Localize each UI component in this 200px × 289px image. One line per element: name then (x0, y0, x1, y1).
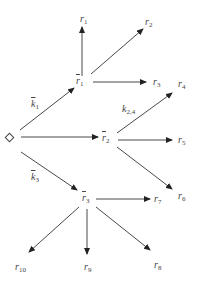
edge-rbar3-r8 (96, 207, 150, 250)
edge-start-rbar1 (20, 88, 74, 130)
node-r5-sub: 5 (182, 139, 186, 147)
node-rbar2-sub: 2 (106, 137, 110, 145)
node-r10-sub: 10 (19, 266, 26, 274)
node-r2-sub: 2 (149, 21, 153, 29)
node-r4: r4 (178, 79, 185, 91)
edge-label-k1-sub: 1 (35, 103, 39, 111)
node-r2: r2 (145, 17, 152, 29)
edge-label-k3: k3 (31, 172, 39, 184)
node-rbar1: r1 (76, 76, 83, 88)
node-r10: r10 (15, 262, 26, 274)
node-r7-sub: 7 (158, 198, 162, 206)
node-rbar1-sub: 1 (80, 80, 84, 88)
node-r9: r9 (84, 262, 91, 274)
tree-diagram (0, 0, 200, 289)
node-rbar3: r3 (82, 193, 89, 205)
node-r3: r3 (153, 77, 160, 89)
node-r1: r1 (80, 14, 87, 26)
node-r6: r6 (178, 191, 185, 203)
edge-label-k24: k2,4 (122, 104, 135, 116)
node-r7: r7 (154, 194, 161, 206)
node-rbar3-sub: 3 (86, 197, 90, 205)
edge-label-k1: k1 (31, 99, 39, 111)
edge-rbar3-r10 (29, 207, 79, 252)
edge-rbar2-r6 (117, 147, 172, 189)
edge-start-rbar3 (21, 152, 77, 190)
node-r5: r5 (178, 135, 185, 147)
node-rbar2: r2 (102, 133, 109, 145)
node-r8: r8 (154, 260, 161, 272)
node-r6-sub: 6 (182, 195, 186, 203)
edge-label-k3-sub: 3 (35, 176, 39, 184)
node-r3-sub: 3 (157, 81, 161, 89)
node-r1-sub: 1 (84, 18, 88, 26)
node-r4-sub: 4 (182, 83, 186, 91)
node-r9-sub: 9 (88, 266, 92, 274)
node-r8-sub: 8 (158, 264, 162, 272)
edge-label-k24-sub: 2,4 (126, 108, 135, 116)
edge-rbar1-r2 (91, 29, 143, 74)
